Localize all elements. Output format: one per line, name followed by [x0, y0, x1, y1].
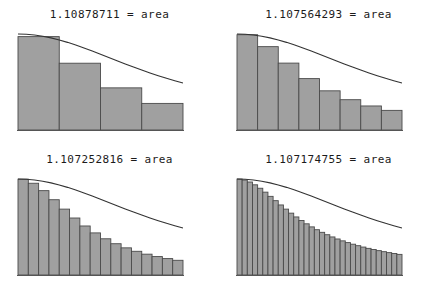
riemann-rectangle — [278, 205, 283, 275]
riemann-rectangle — [387, 253, 392, 275]
riemann-rectangle — [335, 239, 340, 275]
riemann-rectangle — [268, 196, 273, 275]
riemann-rectangle — [162, 259, 172, 275]
riemann-rectangle — [152, 257, 162, 275]
riemann-rectangle — [299, 221, 304, 276]
panel-title-4: 1.10878711 = area — [0, 8, 219, 22]
riemann-rectangle — [258, 47, 279, 130]
riemann-rectangle — [392, 254, 397, 275]
riemann-rectangle — [299, 79, 320, 130]
riemann-rectangle — [101, 239, 111, 275]
riemann-rectangle — [142, 254, 152, 275]
riemann-rectangle — [366, 248, 371, 275]
riemann-plot-4 — [0, 22, 219, 140]
riemann-rectangle — [309, 227, 314, 275]
riemann-rectangle — [242, 180, 247, 275]
riemann-rectangle — [361, 247, 366, 275]
riemann-rectangle — [356, 246, 361, 275]
riemann-rectangle — [381, 110, 402, 130]
riemann-rectangle — [39, 191, 49, 275]
riemann-rectangle — [278, 63, 299, 130]
riemann-rectangle — [320, 91, 341, 130]
riemann-rectangle — [28, 183, 38, 275]
riemann-rectangle — [173, 260, 183, 275]
riemann-rectangle — [70, 218, 80, 275]
riemann-rectangle — [340, 100, 361, 130]
riemann-rectangle — [330, 237, 335, 275]
riemann-sum-figure: 1.10878711 = area 1.107564293 = area 1.1… — [0, 0, 438, 290]
riemann-rectangle — [258, 188, 263, 275]
panel-8-rectangles: 1.107564293 = area — [219, 0, 438, 145]
panel-title-8: 1.107564293 = area — [219, 8, 438, 22]
riemann-plot-16 — [0, 167, 219, 285]
riemann-rectangle — [381, 252, 386, 275]
panel-title-16: 1.107252816 = area — [0, 153, 219, 167]
riemann-rectangle — [131, 251, 141, 275]
riemann-rectangle — [18, 179, 28, 275]
riemann-rectangle — [247, 182, 252, 275]
riemann-rectangle — [289, 213, 294, 275]
riemann-rectangle — [350, 244, 355, 275]
riemann-rectangle — [59, 63, 100, 130]
riemann-plot-8 — [219, 22, 438, 140]
riemann-rectangle — [294, 217, 299, 275]
riemann-rectangle — [121, 248, 131, 275]
riemann-rectangle — [361, 106, 382, 130]
riemann-rectangle — [371, 250, 376, 275]
riemann-rectangle — [80, 226, 90, 275]
riemann-rectangle — [252, 185, 257, 275]
riemann-rectangle — [283, 209, 288, 275]
riemann-plot-32 — [219, 167, 438, 285]
riemann-rectangle — [397, 254, 402, 275]
riemann-rectangle — [111, 244, 121, 275]
panel-32-rectangles: 1.107174755 = area — [219, 145, 438, 290]
panel-16-rectangles: 1.107252816 = area — [0, 145, 219, 290]
riemann-rectangle — [340, 241, 345, 275]
riemann-rectangle — [237, 179, 242, 275]
riemann-rectangle — [263, 192, 268, 275]
panel-4-rectangles: 1.10878711 = area — [0, 0, 219, 145]
riemann-rectangle — [304, 224, 309, 275]
riemann-rectangle — [320, 232, 325, 275]
riemann-rectangle — [49, 200, 59, 275]
riemann-rectangle — [18, 37, 59, 130]
riemann-rectangle — [345, 243, 350, 275]
riemann-rectangle — [59, 209, 69, 275]
riemann-rectangle — [237, 35, 258, 130]
panel-title-32: 1.107174755 = area — [219, 153, 438, 167]
riemann-rectangle — [90, 233, 100, 275]
riemann-rectangle — [101, 88, 142, 130]
riemann-rectangle — [142, 103, 183, 130]
riemann-rectangle — [325, 235, 330, 275]
riemann-rectangle — [273, 201, 278, 275]
riemann-rectangle — [376, 251, 381, 275]
riemann-rectangle — [314, 230, 319, 275]
